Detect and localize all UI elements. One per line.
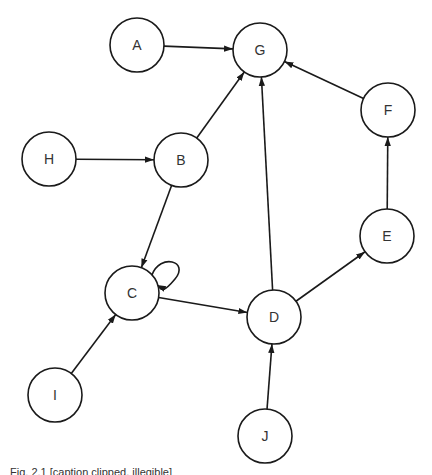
- node-H: H: [22, 132, 76, 186]
- node-label: F: [384, 102, 393, 118]
- edge-F-to-G: [284, 61, 363, 98]
- edge-J-to-D: [267, 344, 272, 409]
- edge-A-to-G: [164, 46, 233, 49]
- edge-H-to-B: [76, 159, 154, 160]
- node-J: J: [238, 409, 292, 463]
- edge-E-to-F: [387, 137, 388, 209]
- node-label: C: [127, 285, 137, 301]
- node-E: E: [360, 209, 414, 263]
- node-label: I: [53, 387, 57, 403]
- node-label: A: [132, 37, 142, 53]
- figure-caption: Fig. 2.1 [caption clipped, illegible]: [10, 465, 172, 475]
- node-label: H: [44, 151, 54, 167]
- edge-D-to-E: [296, 252, 365, 302]
- directed-graph: AGFHBECDIJ: [0, 0, 432, 475]
- edge-C-to-D: [159, 297, 248, 312]
- edge-B-to-G: [197, 72, 245, 138]
- node-label: D: [269, 309, 279, 325]
- edges-layer: [71, 46, 388, 409]
- node-A: A: [110, 18, 164, 72]
- node-I: I: [28, 368, 82, 422]
- node-C: C: [105, 266, 159, 320]
- edge-D-to-G: [261, 77, 272, 290]
- node-F: F: [361, 83, 415, 137]
- node-label: E: [382, 228, 391, 244]
- node-B: B: [154, 133, 208, 187]
- node-G: G: [233, 23, 287, 77]
- node-D: D: [247, 290, 301, 344]
- edge-I-to-C: [71, 315, 115, 374]
- nodes-layer: AGFHBECDIJ: [22, 18, 415, 463]
- node-label: J: [262, 428, 269, 444]
- node-label: G: [255, 42, 266, 58]
- edge-B-to-C: [141, 185, 171, 267]
- node-label: B: [176, 152, 185, 168]
